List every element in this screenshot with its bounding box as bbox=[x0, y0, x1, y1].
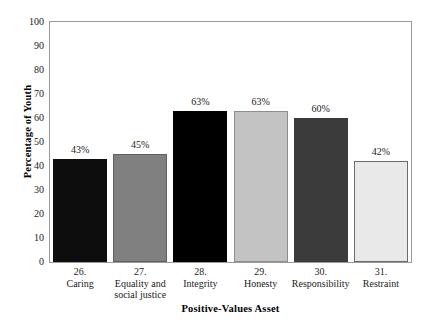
x-axis-title: Positive-Values Asset bbox=[49, 303, 412, 314]
y-axis-tick-label: 30 bbox=[0, 185, 44, 195]
x-label-name: social justice bbox=[104, 289, 176, 301]
x-label-number: 31. bbox=[345, 266, 417, 278]
bars-layer: 43%45%63%63%60%42% bbox=[50, 22, 411, 262]
y-axis-tick-label: 70 bbox=[0, 89, 44, 99]
bar-group: 63% bbox=[173, 22, 227, 262]
bar-value-label: 63% bbox=[191, 97, 209, 107]
bar-value-label: 45% bbox=[131, 140, 149, 150]
bar-value-label: 60% bbox=[312, 104, 330, 114]
y-axis-tick-label: 50 bbox=[0, 137, 44, 147]
bar-group: 60% bbox=[294, 22, 348, 262]
bar-chart: Percentage of Youth 01020304050607080901… bbox=[0, 0, 430, 323]
x-axis-tick-labels: 26.Caring27.Equality andsocial justice28… bbox=[50, 266, 411, 300]
bar[interactable] bbox=[113, 154, 167, 262]
bar-group: 42% bbox=[354, 22, 408, 262]
y-axis-tick-label: 100 bbox=[0, 17, 44, 27]
bar-group: 63% bbox=[234, 22, 288, 262]
y-axis-tick-label: 40 bbox=[0, 161, 44, 171]
bar-group: 43% bbox=[53, 22, 107, 262]
bar[interactable] bbox=[53, 159, 107, 262]
y-axis-tick-label: 0 bbox=[0, 257, 44, 267]
x-axis-tick-label: 31.Restraint bbox=[345, 266, 417, 289]
y-axis-tick-label: 80 bbox=[0, 65, 44, 75]
y-axis-tick-label: 60 bbox=[0, 113, 44, 123]
y-axis-tick-label: 90 bbox=[0, 41, 44, 51]
bar[interactable] bbox=[354, 161, 408, 262]
bar-group: 45% bbox=[113, 22, 167, 262]
bar[interactable] bbox=[294, 118, 348, 262]
y-axis-tick-label: 10 bbox=[0, 233, 44, 243]
bar-value-label: 43% bbox=[71, 145, 89, 155]
bar[interactable] bbox=[173, 111, 227, 262]
bar[interactable] bbox=[234, 111, 288, 262]
y-axis-tick-labels: 0102030405060708090100 bbox=[0, 21, 44, 263]
y-axis-tick-label: 20 bbox=[0, 209, 44, 219]
bar-value-label: 42% bbox=[372, 147, 390, 157]
bar-value-label: 63% bbox=[251, 97, 269, 107]
x-label-name: Restraint bbox=[345, 278, 417, 290]
